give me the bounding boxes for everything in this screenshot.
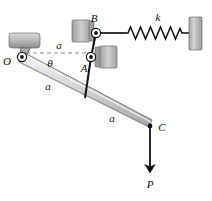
label-P: P — [146, 178, 154, 190]
label-a-top: a — [56, 39, 62, 51]
pin-joint-O — [17, 52, 26, 61]
label-A: A — [80, 62, 88, 74]
fixed-wall-right — [189, 17, 202, 50]
label-theta: θ — [47, 57, 53, 69]
label-k: k — [156, 11, 162, 23]
mechanics-figure: O A B C k P θ a a a — [0, 0, 212, 201]
diagram-canvas: O A B C k P θ a a a — [0, 0, 212, 201]
pin-joint-B — [91, 28, 100, 37]
label-B: B — [91, 12, 98, 24]
coil-spring — [99, 27, 189, 39]
label-O: O — [3, 55, 11, 67]
pin-joint-A — [86, 52, 95, 61]
slider-block-at-A — [95, 46, 117, 68]
label-C: C — [158, 121, 166, 133]
label-a-upper-bar: a — [45, 80, 51, 92]
label-a-lower-bar: a — [109, 112, 115, 124]
